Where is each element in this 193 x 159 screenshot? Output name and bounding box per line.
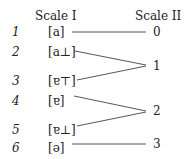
line-3-1 xyxy=(77,66,146,80)
line-4-2 xyxy=(74,96,146,111)
mapping-lines xyxy=(0,0,193,159)
line-2-1 xyxy=(75,51,146,65)
line-5-2 xyxy=(77,112,146,126)
